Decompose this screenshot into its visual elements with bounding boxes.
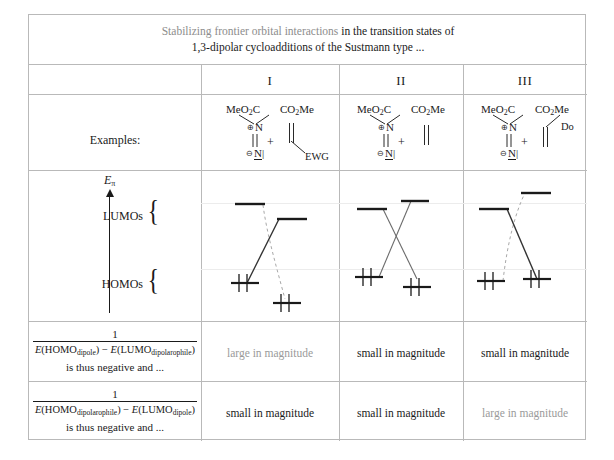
caption-line-1-black: in the transition states of <box>338 25 454 37</box>
f1-close2: ) <box>192 344 196 355</box>
figure-root: Stabilizing frontier orbital interaction… <box>0 0 614 460</box>
fraction-1: 1 E(HOMOdipole) − E(LUMOdipolarophile) <box>33 328 197 359</box>
interaction-b-II <box>379 201 411 277</box>
magnitude-1-I: large in magnitude <box>201 347 339 359</box>
orbital-diagram-II <box>339 183 463 321</box>
interaction-solid-I <box>247 219 279 283</box>
rule-below-formula-1 <box>29 381 587 382</box>
column-head-III: III <box>463 73 587 89</box>
f2-mo1: (HOMO <box>41 404 77 415</box>
orbital-diagram-I <box>201 183 339 321</box>
f1-minus: − <box>99 344 110 355</box>
f1-mo1: (HOMO <box>41 344 77 355</box>
rule-below-diagram <box>29 321 587 322</box>
f2-mo2: (LUMO <box>138 404 172 415</box>
homos-label: HOMOs <box>73 277 143 292</box>
formula-cell-2: 1 E(HOMOdipolarophile) − E(LUMOdipole) i… <box>29 388 201 434</box>
f1-sub2: dipolarophile <box>151 348 191 357</box>
magnitude-2-II: small in magnitude <box>339 407 463 419</box>
f2-sub2: dipole <box>173 408 192 417</box>
energy-axis-subscript: π <box>111 179 115 188</box>
energy-axis-label: Eπ <box>104 173 115 188</box>
figure-caption: Stabilizing frontier orbital interaction… <box>29 23 587 55</box>
interaction-dashed-III <box>503 193 525 281</box>
plus-sign-III: + <box>521 135 528 150</box>
f2-sub1: dipolarophile <box>77 408 117 417</box>
diazo-n-top-II: ⊕N <box>363 121 409 134</box>
fraction-1-denominator: E(HOMOdipole) − E(LUMOdipolarophile) <box>33 341 197 359</box>
interaction-a-II <box>383 209 417 279</box>
plus-sign-II: + <box>398 135 405 150</box>
rule-below-colheads <box>29 94 587 95</box>
f2-minus: − <box>121 404 132 415</box>
fraction-2-numerator: 1 <box>33 388 197 401</box>
caption-line-1: Stabilizing frontier orbital interaction… <box>29 23 587 39</box>
formula-2-tail: is thus negative and ... <box>29 421 201 434</box>
f1-mo2: (LUMO <box>117 344 151 355</box>
diazo-n-top-I: ⊕N <box>232 121 278 134</box>
example-structure-III: MeO2CCO2Me ⊕N ⊖N| + <box>463 101 587 173</box>
magnitude-2-I: small in magnitude <box>201 407 339 419</box>
interaction-solid-III <box>507 209 537 279</box>
magnitude-1-III: small in magnitude <box>463 347 587 359</box>
column-head-II: II <box>339 73 463 89</box>
do-label-III: Do <box>561 121 574 132</box>
ewg-label-I: EWG <box>305 151 329 162</box>
plus-sign-I: + <box>267 135 274 150</box>
caption-line-1-gray: Stabilizing frontier orbital interaction… <box>162 25 339 37</box>
f1-sub1: dipole <box>77 348 96 357</box>
magnitude-1-II: small in magnitude <box>339 347 463 359</box>
formula-cell-1: 1 E(HOMOdipole) − E(LUMOdipolarophile) i… <box>29 328 201 374</box>
caption-line-2: 1,3-dipolar cycloadditions of the Sustma… <box>29 39 587 55</box>
orbital-diagram-III <box>463 183 587 321</box>
examples-row-label: Examples: <box>29 133 201 148</box>
table-frame: Stabilizing frontier orbital interaction… <box>28 14 586 440</box>
magnitude-2-III: large in magnitude <box>463 407 587 419</box>
fraction-1-numerator: 1 <box>33 328 197 341</box>
column-head-I: I <box>201 73 339 89</box>
diazo-n-top-III: ⊕N <box>486 121 532 134</box>
example-structure-II: MeO2CCO2Me ⊕N ⊖N| + <box>339 101 463 173</box>
fraction-2: 1 E(HOMOdipolarophile) − E(LUMOdipole) <box>33 388 197 419</box>
lumos-label: LUMOs <box>73 209 143 224</box>
fraction-2-denominator: E(HOMOdipolarophile) − E(LUMOdipole) <box>33 401 197 419</box>
lumos-brace: { <box>147 195 159 225</box>
example-structure-I: MeO2CCO2Me ⊕N ⊖N| + <box>201 101 339 173</box>
homos-brace: { <box>147 264 159 294</box>
rule-below-caption <box>29 64 587 65</box>
f2-close2: ) <box>192 404 196 415</box>
formula-1-tail: is thus negative and ... <box>29 361 201 374</box>
